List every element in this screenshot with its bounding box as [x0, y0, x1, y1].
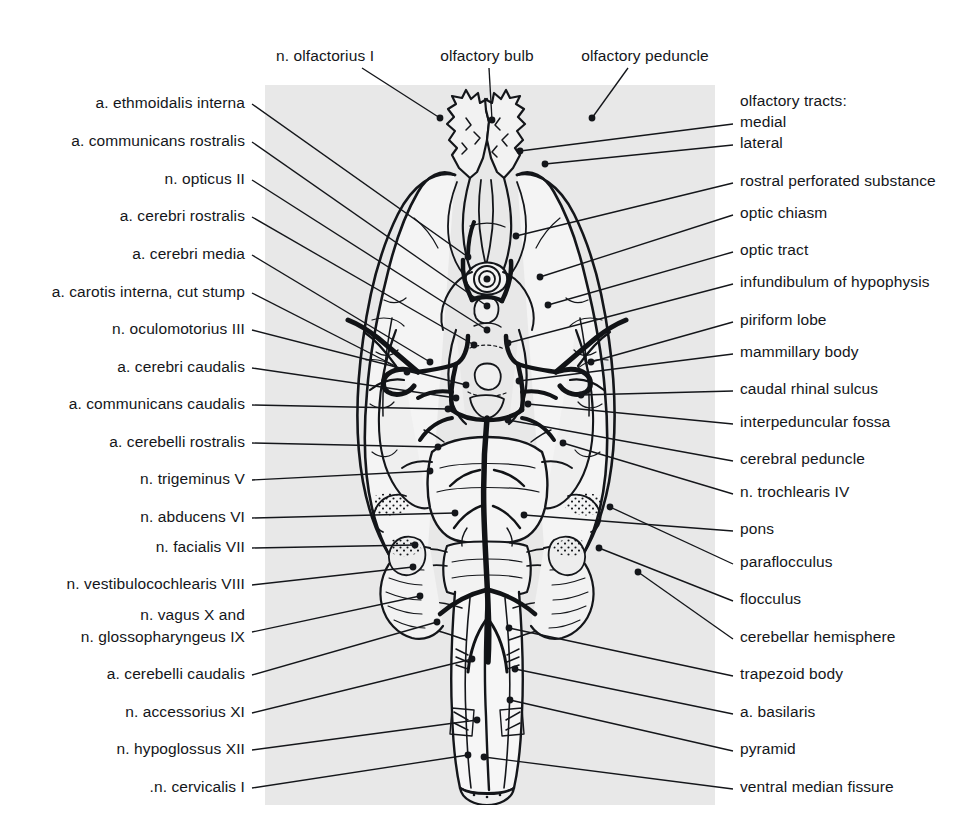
label-right-medial: medial [740, 112, 786, 131]
label-left-n-opticus-ii: n. opticus II [164, 169, 245, 188]
label-left-n-hypoglossus-xii: n. hypoglossus XII [117, 739, 245, 758]
label-left-n-trigeminus-v: n. trigeminus V [140, 469, 245, 488]
label-right-rostral-perforated-substance: rostral perforated substance [740, 171, 936, 190]
label-right-optic-chiasm: optic chiasm [740, 203, 827, 222]
label-left-a-communicans-rostralis: a. communicans rostralis [71, 131, 245, 150]
label-right-cerebral-peduncle: cerebral peduncle [740, 449, 865, 468]
label-left-a-cerebri-caudalis: a. cerebri caudalis [117, 357, 245, 376]
label-left-n-vestibulocochlearis-viii: n. vestibulocochlearis VIII [67, 574, 245, 593]
label-left-a-cerebri-media: a. cerebri media [132, 244, 245, 263]
label-left-a-carotis-interna-cut-stump: a. carotis interna, cut stump [52, 282, 245, 301]
label-left-n-oculomotorius-iii: n. oculomotorius III [112, 319, 245, 338]
label-right-optic-tract: optic tract [740, 240, 808, 259]
label-left-n-abducens-vi: n. abducens VI [140, 507, 245, 526]
label-right-piriform-lobe: piriform lobe [740, 310, 827, 329]
label-right-paraflocculus: paraflocculus [740, 552, 833, 571]
label-right-ventral-median-fissure: ventral median fissure [740, 777, 894, 796]
label-left-a-cerebelli-rostralis: a. cerebelli rostralis [109, 432, 245, 451]
label-top-olfactory-peduncle: olfactory peduncle [581, 46, 709, 65]
label-right-olfactory-tracts: olfactory tracts: [740, 91, 847, 110]
label-left-a-cerebelli-caudalis: a. cerebelli caudalis [107, 664, 245, 683]
label-right-interpeduncular-fossa: interpeduncular fossa [740, 412, 890, 431]
label-left-n-cervicalis-i: .n. cervicalis I [150, 777, 246, 796]
label-left-n-glossopharyngeus-ix: n. glossopharyngeus IX [81, 627, 245, 646]
label-right-infundibulum-of-hypophysis: infundibulum of hypophysis [740, 272, 930, 291]
label-right-a-basilaris: a. basilaris [740, 702, 815, 721]
label-left-a-ethmoidalis-interna: a. ethmoidalis interna [95, 93, 245, 112]
label-top-n-olfactorius-i: n. olfactorius I [276, 46, 374, 65]
figure-plate-background [265, 85, 715, 805]
label-left-n-accessorius-xi: n. accessorius XI [125, 702, 245, 721]
label-right-caudal-rhinal-sulcus: caudal rhinal sulcus [740, 379, 878, 398]
label-right-cerebellar-hemisphere: cerebellar hemisphere [740, 627, 895, 646]
label-right-pons: pons [740, 519, 774, 538]
label-right-trapezoid-body: trapezoid body [740, 664, 843, 683]
label-right-pyramid: pyramid [740, 739, 796, 758]
label-left-a-communicans-caudalis: a. communicans caudalis [69, 394, 245, 413]
label-right-mammillary-body: mammillary body [740, 342, 859, 361]
label-right-flocculus: flocculus [740, 589, 801, 608]
label-left-n-vagus-x-and: n. vagus X and [140, 605, 245, 624]
label-right-n-trochlearis-iv: n. trochlearis IV [740, 482, 849, 501]
label-left-n-facialis-vii: n. facialis VII [156, 537, 245, 556]
anatomy-figure: n. olfactorius Iolfactory bulbolfactory … [0, 0, 961, 838]
label-top-olfactory-bulb: olfactory bulb [440, 46, 534, 65]
label-left-a-cerebri-rostralis: a. cerebri rostralis [120, 206, 245, 225]
label-right-lateral: lateral [740, 133, 783, 152]
